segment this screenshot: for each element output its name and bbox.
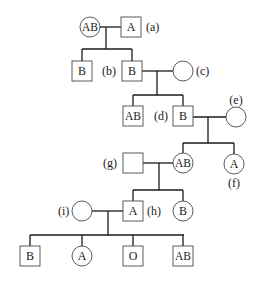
male-individual-g6-m2: O	[123, 246, 143, 266]
individual-label-f: (f)	[228, 176, 240, 190]
blood-type-text: AB	[175, 156, 191, 170]
female-individual-e	[226, 107, 246, 127]
female-individual-g1-f: AB	[80, 17, 100, 37]
circle-female-symbol	[173, 61, 193, 81]
blood-type-text: AB	[125, 109, 141, 123]
square-male-symbol	[123, 153, 143, 173]
individual-label-h: (h)	[147, 204, 161, 218]
pedigree-diagram: ABABBABBABAABBAOAB (a)(b)(c)(d)(e)(g)(f)…	[0, 0, 260, 285]
blood-type-text: AB	[82, 20, 98, 34]
individuals: ABABBABBABAABBAOAB	[20, 17, 246, 266]
blood-type-text: B	[179, 204, 187, 218]
female-individual-i	[72, 201, 92, 221]
blood-type-text: A	[127, 20, 136, 34]
individual-label-i: (i)	[58, 204, 69, 218]
individual-label-b: (b)	[102, 64, 116, 78]
female-individual-g4-f1: AB	[173, 153, 193, 173]
male-individual-d: B	[173, 106, 193, 126]
blood-type-text: A	[129, 204, 138, 218]
blood-type-text: B	[26, 249, 34, 263]
male-individual-g6-m1: B	[20, 246, 40, 266]
male-individual-g	[123, 153, 143, 173]
male-individual-g3-m1: AB	[123, 106, 143, 126]
male-individual-g2-m1: B	[72, 61, 92, 81]
blood-type-text: B	[179, 109, 187, 123]
blood-type-text: A	[230, 157, 239, 171]
blood-type-text: AB	[175, 249, 191, 263]
female-individual-f: A	[224, 154, 244, 174]
blood-type-text: B	[78, 64, 86, 78]
circle-female-symbol	[226, 107, 246, 127]
male-individual-a: A	[121, 17, 141, 37]
blood-type-text: B	[128, 64, 136, 78]
male-individual-h: A	[123, 201, 143, 221]
individual-label-g: (g)	[103, 156, 117, 170]
blood-type-text: O	[129, 249, 138, 263]
female-individual-g6-f1: A	[72, 246, 92, 266]
blood-type-text: A	[78, 249, 87, 263]
male-individual-g6-m3: AB	[173, 246, 193, 266]
male-individual-b: B	[122, 61, 142, 81]
individual-label-c: (c)	[196, 64, 209, 78]
individual-label-e: (e)	[229, 93, 242, 107]
individual-labels: (a)(b)(c)(d)(e)(g)(f)(i)(h)	[58, 20, 243, 218]
individual-label-a: (a)	[146, 20, 159, 34]
female-individual-g5-f1: B	[173, 201, 193, 221]
circle-female-symbol	[72, 201, 92, 221]
female-individual-c	[173, 61, 193, 81]
individual-label-d: (d)	[154, 109, 168, 123]
